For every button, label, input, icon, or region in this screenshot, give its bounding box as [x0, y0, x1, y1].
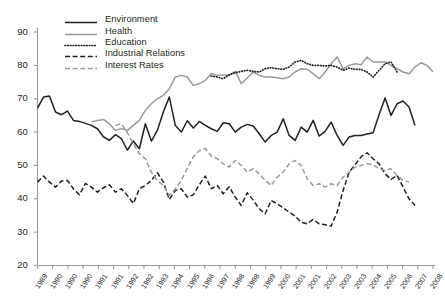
legend-label: Health	[105, 26, 132, 37]
legend-label: Industrial Relations	[105, 48, 185, 59]
y-tick-label: 40	[6, 192, 28, 203]
legend-item: Health	[64, 25, 185, 36]
legend-swatch-dotted-line-icon	[64, 37, 98, 48]
y-tick-label: 90	[6, 26, 28, 37]
y-tick-label: 80	[6, 59, 28, 70]
line-chart: 2030405060708090 19891990199019901991199…	[0, 0, 445, 303]
series-line-environment	[38, 96, 416, 150]
legend-label: Education	[105, 37, 147, 48]
series-line-industrial-relations	[38, 153, 416, 226]
legend-item: Environment	[64, 14, 185, 25]
chart-legend: EnvironmentHealthEducationIndustrial Rel…	[64, 14, 185, 71]
legend-item: Interest Rates	[64, 60, 185, 71]
y-tick-label: 20	[6, 259, 28, 270]
legend-item: Industrial Relations	[64, 48, 185, 59]
y-tick-label: 70	[6, 92, 28, 103]
legend-swatch-dashed-line-icon	[64, 48, 98, 59]
legend-label: Interest Rates	[105, 60, 164, 71]
legend-item: Education	[64, 37, 185, 48]
legend-swatch-solid-line-icon	[64, 26, 98, 37]
y-tick-label: 50	[6, 159, 28, 170]
y-tick-label: 30	[6, 226, 28, 237]
legend-label: Environment	[105, 14, 158, 25]
legend-swatch-dashed-line-icon	[64, 60, 98, 71]
y-tick-label: 60	[6, 126, 28, 137]
legend-swatch-solid-line-icon	[64, 14, 98, 25]
